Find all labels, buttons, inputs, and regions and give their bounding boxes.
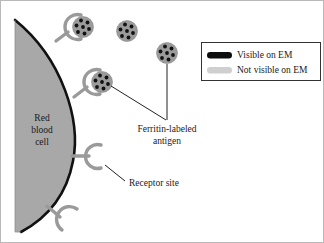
ferritin-core-dot: [79, 19, 83, 23]
ferritin-core-dot: [100, 80, 104, 84]
ferritin-core-dot: [131, 31, 135, 35]
legend: Visible on EM Not visible on EM: [202, 43, 321, 81]
ferritin-core-dot: [119, 28, 123, 32]
ferritin-core-dot: [76, 30, 80, 34]
ferritin-particle-free-b: [157, 43, 178, 64]
legend-label-visible-on-em: Visible on EM: [237, 50, 293, 60]
ferritin-core-dot: [83, 32, 87, 36]
ferritin-core-dot: [81, 25, 85, 29]
ferritin-core-dot: [125, 29, 129, 33]
ferritin-particle-bound-middle: [92, 72, 113, 93]
ferritin-core-dot: [120, 34, 124, 38]
cell-label-line-3: cell: [35, 137, 49, 147]
receptor-label: Receptor site: [129, 178, 179, 188]
ferritin-core-dot: [102, 87, 106, 91]
receptor-site-empty-bottom: [47, 206, 77, 230]
ferritin-core-dot: [130, 25, 134, 29]
receptor-site-empty-middle: [72, 145, 101, 169]
ferritin-core-dot: [170, 47, 174, 51]
ferritin-core-dot: [87, 27, 91, 31]
ferritin-core-dot: [167, 58, 171, 62]
cell-label-line-2: blood: [31, 125, 53, 135]
antigen-label-line-2: antigen: [153, 136, 181, 146]
legend-swatch-visible-on-em: [207, 52, 232, 59]
ferritin-core-dot: [123, 23, 127, 27]
ferritin-core-dot: [105, 76, 109, 80]
ferritin-core-dot: [171, 53, 175, 57]
cell-label-line-1: Red: [34, 113, 50, 123]
figure-panel: Red blood cell: [0, 0, 324, 243]
ferritin-core-dot: [106, 82, 110, 86]
ferritin-core-dot: [94, 79, 98, 83]
ferritin-core-dot: [98, 74, 102, 78]
ferritin-particle-bound-top: [73, 17, 94, 38]
ferritin-core-dot: [160, 56, 164, 60]
ferritin-core-dot: [163, 45, 167, 49]
ferritin-core-dot: [75, 24, 79, 28]
antigen-label-line-1: Ferritin-labeled: [137, 124, 196, 134]
legend-swatch-not-visible-on-em: [207, 67, 232, 74]
ferritin-core-dot: [95, 85, 99, 89]
diagram-canvas: Red blood cell: [1, 1, 324, 243]
ferritin-core-dot: [86, 21, 90, 25]
ferritin-core-dot: [127, 36, 131, 40]
ferritin-particle-free-a: [117, 21, 138, 42]
receptor-leader-line: [105, 165, 125, 181]
antigen-leader-diagonal: [111, 86, 166, 120]
ferritin-core-dot: [159, 50, 163, 54]
antigen-label: Ferritin-labeled antigen: [137, 124, 196, 146]
ferritin-core-dot: [165, 51, 169, 55]
antigen-leader-lines: [111, 64, 167, 120]
legend-label-not-visible-on-em: Not visible on EM: [237, 65, 308, 75]
